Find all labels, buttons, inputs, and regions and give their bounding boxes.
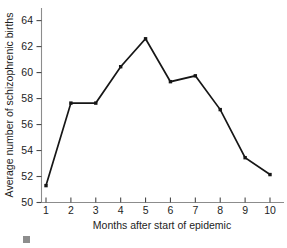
x-tick-label: 6 [168, 204, 174, 216]
y-tick-label: 56 [21, 118, 33, 130]
x-tick-label: 8 [217, 204, 223, 216]
y-axis-title: Average number of schizophrenic births [3, 13, 15, 198]
x-tick-label: 7 [192, 204, 198, 216]
data-point-marker [94, 101, 97, 104]
chart-plot-area: 5052545658606264 12345678910 Average num… [0, 0, 287, 248]
data-point-marker [44, 184, 47, 187]
y-tick-label: 60 [21, 66, 33, 78]
line-chart-figure: 5052545658606264 12345678910 Average num… [0, 0, 287, 248]
y-tick-label: 62 [21, 40, 33, 52]
data-point-marker [69, 101, 72, 104]
y-tick-label: 50 [21, 196, 33, 208]
data-point-marker [144, 37, 147, 40]
x-tick-label: 9 [242, 204, 248, 216]
y-tick-label: 64 [21, 14, 33, 26]
data-series-line [46, 39, 270, 186]
y-axis-tick-labels: 5052545658606264 [21, 14, 33, 208]
x-axis-tick-labels: 12345678910 [43, 204, 276, 216]
data-point-marker [119, 65, 122, 68]
y-axis-ticks [37, 21, 42, 203]
data-point-marker [268, 173, 271, 176]
data-point-marker [194, 74, 197, 77]
data-point-marker [219, 108, 222, 111]
x-tick-label: 4 [118, 204, 124, 216]
x-axis-title: Months after start of epidemic [93, 219, 231, 231]
x-axis-ticks [46, 198, 270, 203]
data-point-marker [169, 80, 172, 83]
data-point-marker [243, 156, 246, 159]
x-tick-label: 1 [43, 204, 49, 216]
x-tick-label: 5 [143, 204, 149, 216]
x-tick-label: 2 [68, 204, 74, 216]
x-tick-label: 10 [264, 204, 276, 216]
corner-swatch-marker [23, 236, 30, 243]
y-tick-label: 58 [21, 92, 33, 104]
x-tick-label: 3 [93, 204, 99, 216]
y-tick-label: 54 [21, 144, 33, 156]
y-tick-label: 52 [21, 170, 33, 182]
